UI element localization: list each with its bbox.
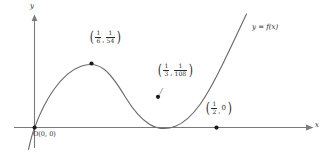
coord-comma: ,: [102, 37, 104, 44]
inflection-leader-line: [160, 88, 164, 95]
curve-label: y = f(x): [252, 24, 278, 31]
x-axis-label: x: [315, 122, 319, 129]
label-inflection-point: ( 1 3 , 1 108 ): [157, 62, 193, 78]
coord-comma: ,: [170, 70, 172, 77]
minimum-y-value: 0: [222, 105, 226, 112]
x-axis: [14, 125, 314, 131]
paren-open: (: [90, 31, 94, 43]
inflection-x-fraction: 1 3: [163, 63, 169, 77]
label-minimum-point: ( 1 2 , 0 ): [205, 100, 232, 116]
maximum-y-fraction: 1 54: [106, 30, 116, 44]
paren-close: ): [188, 64, 192, 76]
paren-close: ): [117, 31, 121, 43]
maximum-x-fraction: 1 6: [95, 30, 101, 44]
paren-open: (: [206, 102, 210, 114]
y-axis-label: y: [30, 3, 34, 10]
label-maximum-point: ( 1 6 , 1 54 ): [89, 29, 122, 45]
marker-maximum: [89, 61, 93, 65]
marker-inflection: [156, 95, 160, 99]
function-curve: [29, 14, 247, 150]
paren-close: ): [227, 102, 231, 114]
marker-minimum: [214, 126, 218, 130]
origin-label: O(0, 0): [33, 131, 56, 138]
paren-open: (: [158, 64, 162, 76]
minimum-x-fraction: 1 2: [211, 101, 217, 115]
inflection-y-fraction: 1 108: [174, 63, 187, 77]
figure-container: y x O(0, 0) y = f(x) ( 1 6 , 1 54 ): [0, 0, 324, 154]
coord-comma: ,: [218, 108, 220, 115]
